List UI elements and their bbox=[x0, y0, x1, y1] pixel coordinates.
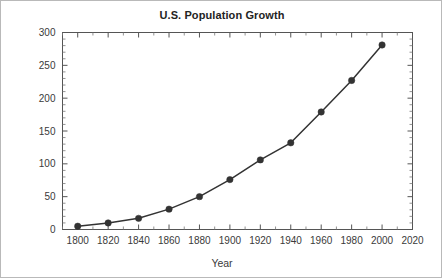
data-series bbox=[75, 42, 386, 230]
chart-container: U.S. Population Growth Millions of Peopl… bbox=[0, 0, 442, 278]
data-point bbox=[166, 206, 172, 212]
y-tick-label: 50 bbox=[44, 191, 56, 202]
data-point bbox=[318, 109, 324, 115]
x-tick-label: 1860 bbox=[158, 235, 181, 246]
x-tick-label: 1980 bbox=[341, 235, 364, 246]
y-tick-label: 300 bbox=[39, 27, 56, 38]
data-point bbox=[196, 193, 202, 199]
y-tick-label: 150 bbox=[39, 126, 56, 137]
x-tick-labels: 1800182018401860188019001920194019601980… bbox=[67, 235, 424, 246]
data-point bbox=[105, 220, 111, 226]
y-tick-label: 0 bbox=[50, 224, 56, 235]
x-tick-label: 1820 bbox=[97, 235, 120, 246]
y-tick-labels: 050100150200250300 bbox=[39, 27, 56, 235]
data-point bbox=[257, 157, 263, 163]
data-point bbox=[135, 215, 141, 221]
y-tick-label: 100 bbox=[39, 158, 56, 169]
y-tick-label: 250 bbox=[39, 60, 56, 71]
data-point bbox=[227, 176, 233, 182]
major-ticks bbox=[63, 33, 413, 230]
data-point bbox=[348, 77, 354, 83]
data-point bbox=[75, 223, 81, 229]
axis-frame bbox=[63, 33, 413, 230]
x-tick-label: 1920 bbox=[249, 235, 272, 246]
data-point bbox=[379, 42, 385, 48]
x-tick-label: 2020 bbox=[401, 235, 424, 246]
x-tick-label: 1840 bbox=[127, 235, 150, 246]
x-tick-label: 1880 bbox=[188, 235, 211, 246]
x-tick-label: 1800 bbox=[67, 235, 90, 246]
y-tick-label: 200 bbox=[39, 93, 56, 104]
minor-ticks bbox=[63, 33, 413, 230]
plot-area: 050100150200250300 180018201840186018801… bbox=[1, 1, 442, 278]
x-tick-label: 2000 bbox=[371, 235, 394, 246]
data-point bbox=[288, 140, 294, 146]
x-tick-label: 1900 bbox=[219, 235, 242, 246]
axis-frame-rect bbox=[63, 33, 413, 230]
series-line-us-population bbox=[78, 45, 382, 226]
x-tick-label: 1940 bbox=[280, 235, 303, 246]
x-tick-label: 1960 bbox=[310, 235, 333, 246]
